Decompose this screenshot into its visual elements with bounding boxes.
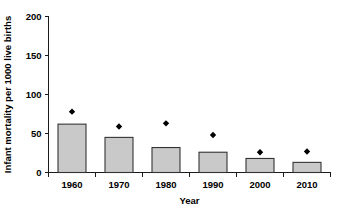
x-axis-title: Year [179, 195, 199, 206]
y-axis-tick-label: 0 [36, 167, 41, 178]
x-axis-tick-label: 1980 [155, 179, 176, 190]
y-axis-tick-label: 100 [26, 89, 42, 100]
x-axis-tick-label: 2010 [296, 179, 317, 190]
y-axis-tick-label: 200 [26, 11, 42, 22]
diamond-marker [163, 120, 169, 126]
diamond-marker [116, 123, 122, 129]
bar [246, 158, 274, 172]
bar [152, 148, 180, 173]
y-axis-tick-label: 50 [31, 128, 42, 139]
diamond-marker [304, 148, 310, 154]
bar [105, 137, 133, 172]
bar [199, 152, 227, 172]
y-axis-title: Infant mortality per 1000 live births [2, 16, 13, 173]
diamond-marker [210, 132, 216, 138]
bar [293, 162, 321, 172]
diamond-marker [69, 108, 75, 114]
bar [58, 124, 86, 172]
y-axis-tick-label: 150 [26, 50, 42, 61]
bar-chart: 050100150200196019701980199020002010Year… [0, 0, 340, 214]
chart-container: 050100150200196019701980199020002010Year… [0, 0, 340, 214]
x-axis-tick-label: 2000 [249, 179, 270, 190]
diamond-marker [257, 149, 263, 155]
x-axis-tick-label: 1960 [61, 179, 82, 190]
x-axis-tick-label: 1990 [202, 179, 223, 190]
x-axis-tick-label: 1970 [108, 179, 129, 190]
